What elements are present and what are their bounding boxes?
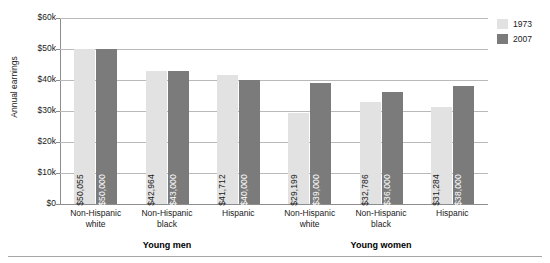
legend-label: 1973 (513, 19, 532, 29)
bar-2007-0: $50,000 (96, 49, 117, 204)
bottom-divider (8, 256, 542, 257)
bar-value-label: $38,000 (453, 174, 463, 205)
legend-item: 2007 (497, 34, 532, 44)
group-label: Young women (321, 240, 441, 250)
bar-value-label: $43,000 (168, 174, 178, 205)
bar-value-label: $42,964 (146, 174, 156, 205)
bar-2007-3: $39,000 (310, 83, 331, 204)
group-label: Young men (107, 240, 227, 250)
bar-1973-3: $29,199 (288, 113, 309, 204)
bar-1973-1: $42,964 (146, 71, 167, 204)
y-tick-label: $10k (0, 167, 56, 177)
gridline (60, 204, 488, 205)
plot-area: $0$10k$20k$30k$40k$50k$60k $50,055$50,00… (60, 18, 488, 204)
y-tick-label: $50k (0, 43, 56, 53)
bar-2007-5: $38,000 (453, 86, 474, 204)
bar-2007-1: $43,000 (168, 71, 189, 204)
bar-1973-0: $50,055 (74, 49, 95, 204)
y-tick-label: $30k (0, 105, 56, 115)
bar-chart: Annual earnings $0$10k$20k$30k$40k$50k$6… (0, 0, 550, 263)
bar-2007-4: $36,000 (382, 92, 403, 204)
category-label: Hispanic (417, 208, 488, 219)
bar-value-label: $39,000 (311, 174, 321, 205)
bar-value-label: $50,000 (97, 174, 107, 205)
category-label: Non-Hispanicwhite (60, 208, 131, 229)
bar-value-label: $50,055 (75, 174, 85, 205)
legend: 19732007 (497, 19, 532, 49)
category-labels: Non-HispanicwhiteNon-HispanicblackHispan… (60, 208, 488, 234)
legend-swatch-2007 (497, 34, 508, 44)
bar-value-label: $36,000 (382, 174, 392, 205)
y-tick-label: $0 (0, 198, 56, 208)
legend-label: 2007 (513, 34, 532, 44)
bar-1973-2: $41,712 (217, 75, 238, 204)
bars-layer: $50,055$50,000$42,964$43,000$41,712$40,0… (60, 18, 488, 204)
group-labels: Young menYoung women (60, 240, 488, 254)
y-tick-label: $60k (0, 12, 56, 22)
bar-2007-2: $40,000 (239, 80, 260, 204)
y-tick-label: $20k (0, 136, 56, 146)
bar-1973-5: $31,284 (431, 107, 452, 204)
legend-swatch-1973 (497, 19, 508, 29)
bar-value-label: $29,199 (289, 174, 299, 205)
bar-value-label: $31,284 (431, 174, 441, 205)
bar-value-label: $32,786 (360, 174, 370, 205)
bar-1973-4: $32,786 (360, 102, 381, 204)
category-label: Hispanic (203, 208, 274, 219)
legend-item: 1973 (497, 19, 532, 29)
category-label: Non-Hispanicblack (345, 208, 416, 229)
y-tick-label: $40k (0, 74, 56, 84)
y-tick-mark (56, 204, 60, 205)
bar-value-label: $40,000 (239, 174, 249, 205)
category-label: Non-Hispanicwhite (274, 208, 345, 229)
category-label: Non-Hispanicblack (131, 208, 202, 229)
bar-value-label: $41,712 (217, 174, 227, 205)
